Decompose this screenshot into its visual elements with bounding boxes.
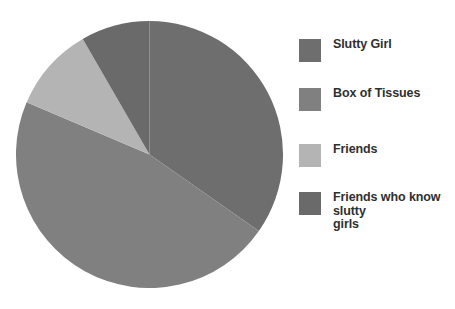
legend-swatch	[299, 88, 321, 111]
legend-label: Friends	[333, 143, 377, 157]
legend-swatch	[299, 144, 321, 167]
legend-label: Slutty Girl	[333, 38, 392, 52]
legend-item: Friends	[299, 143, 377, 167]
pie-chart-screenshot: Slutty GirlBox of TissuesFriendsFriends …	[0, 0, 455, 309]
legend-swatch	[299, 192, 321, 215]
legend-item: Slutty Girl	[299, 38, 392, 62]
legend-label: Box of Tissues	[333, 87, 420, 101]
pie-chart	[16, 21, 283, 288]
legend-item: Box of Tissues	[299, 87, 420, 111]
pie-chart-svg	[16, 21, 283, 288]
legend-swatch	[299, 39, 321, 62]
chart-title	[0, 0, 300, 3]
legend-item: Friends who know slutty girls	[299, 191, 451, 232]
legend-label: Friends who know slutty girls	[333, 191, 451, 232]
